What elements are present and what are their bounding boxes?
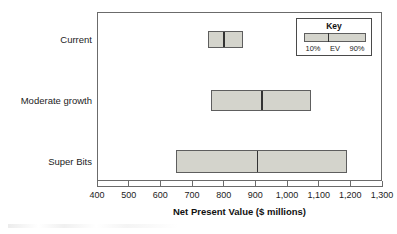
x-tick	[287, 181, 288, 187]
x-tick-label: 1,100	[307, 190, 330, 200]
ev-marker-icon	[223, 32, 224, 47]
x-tick-label: 1,200	[339, 190, 362, 200]
x-tick	[97, 181, 98, 187]
ev-marker-icon	[257, 151, 258, 172]
x-tick	[350, 181, 351, 187]
x-tick-label: 400	[89, 190, 104, 200]
x-axis-line	[97, 186, 382, 187]
legend-label-low: 10%	[305, 44, 320, 53]
x-axis-title: Net Present Value ($ millions)	[97, 206, 382, 217]
x-tick	[160, 181, 161, 187]
ev-marker-icon	[261, 91, 262, 110]
x-tick	[128, 181, 129, 187]
npv-range-chart: Current Moderate growth Super Bits 40050…	[0, 0, 397, 234]
legend-label-high: 90%	[349, 44, 364, 53]
x-tick-label: 700	[184, 190, 199, 200]
legend-title: Key	[297, 21, 371, 31]
x-tick-label: 1,000	[276, 190, 299, 200]
range-bar	[176, 150, 347, 173]
legend-sample-bar	[304, 33, 366, 42]
x-tick	[382, 181, 383, 187]
x-tick-label: 1,300	[371, 190, 394, 200]
range-bar	[208, 31, 243, 48]
category-label-current: Current	[0, 34, 92, 45]
range-bar	[211, 90, 311, 111]
legend-ev-marker-icon	[328, 33, 329, 42]
x-tick-label: 800	[216, 190, 231, 200]
category-label-moderate-growth: Moderate growth	[0, 95, 92, 106]
x-tick-label: 900	[248, 190, 263, 200]
legend-label-ev: EV	[330, 44, 340, 53]
x-tick	[318, 181, 319, 187]
x-tick-label: 600	[153, 190, 168, 200]
x-tick	[255, 181, 256, 187]
category-label-super-bits: Super Bits	[0, 156, 92, 167]
scan-artifact	[8, 224, 178, 228]
x-tick	[192, 181, 193, 187]
x-tick	[223, 181, 224, 187]
x-tick-label: 500	[121, 190, 136, 200]
legend-key-box: Key 10% EV 90%	[296, 18, 372, 56]
